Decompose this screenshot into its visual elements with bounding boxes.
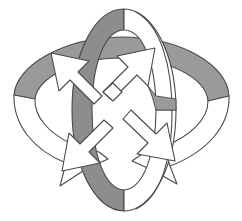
rings-and-arrows-illustration	[0, 0, 242, 221]
figure-root: Two interlocking rings with four outward…	[0, 0, 242, 221]
horizontal-ring-front-left	[14, 95, 72, 163]
